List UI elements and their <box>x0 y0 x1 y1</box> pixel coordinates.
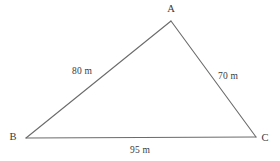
vertex-label-b: B <box>9 132 16 143</box>
side-ac-line <box>171 21 256 137</box>
side-ab-line <box>26 21 171 138</box>
side-bc-line <box>26 137 256 138</box>
side-length-label-ac: 70 m <box>218 72 238 82</box>
side-length-label-bc: 95 m <box>130 146 150 156</box>
vertex-label-c: C <box>261 133 268 144</box>
side-length-label-ab: 80 m <box>72 67 92 77</box>
triangle-figure: A B C 80 m 70 m 95 m <box>0 0 280 161</box>
vertex-label-a: A <box>167 4 175 15</box>
